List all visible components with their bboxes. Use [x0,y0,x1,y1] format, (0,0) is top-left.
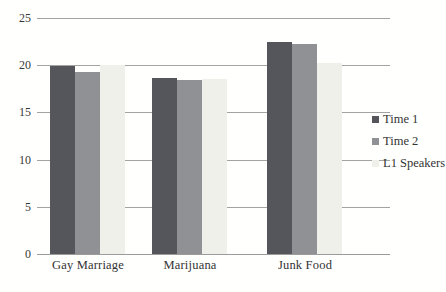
legend-item-time-1: Time 1 [372,112,418,127]
legend-swatch-icon [372,138,379,145]
bar-time-2-marijuana [177,80,202,254]
bar-l1-speakers-junk-food [317,63,342,254]
legend-item-time-2: Time 2 [372,134,418,149]
y-tick-label: 20 [0,58,31,72]
bar-l1-speakers-gay-marriage [100,65,125,254]
x-category-label: Junk Food [245,258,365,273]
legend-item-l1-speakers: L1 Speakers [372,156,445,171]
chart-legend: Time 1Time 2L1 Speakers [372,0,446,292]
y-tick-label: 25 [0,11,31,25]
x-category-label: Marijuana [130,258,250,273]
y-tick-label: 0 [0,247,31,261]
y-tick-label: 5 [0,200,31,214]
bar-time-2-junk-food [292,44,317,255]
bar-time-1-gay-marriage [50,66,75,254]
bar-time-1-junk-food [267,42,292,254]
bar-l1-speakers-marijuana [202,79,227,254]
x-axis-line [37,254,390,255]
y-tick-label: 10 [0,153,31,167]
legend-swatch-icon [372,116,379,123]
legend-label: L1 Speakers [383,156,445,171]
bar-time-2-gay-marriage [75,72,100,254]
bar-chart-figure: 0510152025Gay MarriageMarijuanaJunk Food… [0,0,446,292]
y-tick-label: 15 [0,105,31,119]
legend-label: Time 1 [383,112,418,127]
y-gridline [37,18,390,19]
legend-swatch-icon [372,160,379,167]
legend-label: Time 2 [383,134,418,149]
bar-time-1-marijuana [152,78,177,254]
